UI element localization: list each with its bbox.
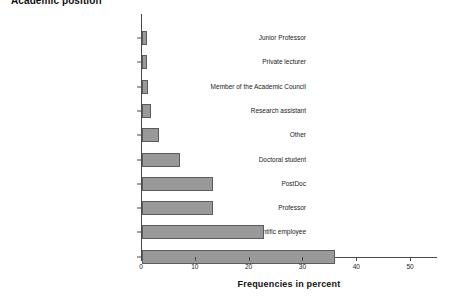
bar-row: Research assistant — [0, 98, 453, 124]
x-axis-tick-label: 30 — [299, 263, 306, 270]
bar — [142, 80, 148, 94]
bar-row: Junior Professor — [0, 25, 453, 51]
bar — [142, 153, 180, 167]
category-label: PostDoc — [281, 181, 306, 188]
x-axis-tick-label: 0 — [139, 263, 143, 270]
bar-chart: Academic position Junior ProfessorPrivat… — [0, 0, 453, 301]
bar — [142, 201, 213, 215]
x-axis-tick — [195, 257, 196, 261]
bar-row: Doctoral student — [0, 147, 453, 173]
y-axis-tick — [137, 62, 141, 63]
bar-row: Professor — [0, 195, 453, 221]
bar-row: Doctoral student and scientific employee — [0, 219, 453, 245]
x-axis-tick-label: 40 — [353, 263, 360, 270]
x-axis-tick — [410, 257, 411, 261]
category-label: Professor — [278, 205, 306, 212]
bar — [142, 31, 147, 45]
x-axis-title: Frequencies in percent — [141, 279, 437, 289]
x-axis-tick-label: 20 — [245, 263, 252, 270]
bar — [142, 250, 335, 264]
bar — [142, 55, 147, 69]
bar-row: Private lecturer — [0, 49, 453, 75]
bar-row: Scientific staff — [0, 244, 453, 270]
y-axis-tick — [137, 208, 141, 209]
x-axis-tick-label: 10 — [191, 263, 198, 270]
y-axis-tick — [137, 159, 141, 160]
category-label: Doctoral student — [259, 156, 306, 163]
y-axis-tick — [137, 38, 141, 39]
category-label: Private lecturer — [262, 59, 306, 66]
bar — [142, 104, 151, 118]
x-axis-tick — [141, 257, 142, 261]
category-label: Other — [290, 132, 306, 139]
category-label: Junior Professor — [259, 35, 306, 42]
category-label: Research assistant — [251, 108, 306, 115]
y-axis-tick — [137, 135, 141, 136]
bar — [142, 177, 213, 191]
bar-row: Other — [0, 122, 453, 148]
x-axis-tick-label: 50 — [406, 263, 413, 270]
bar-row: Member of the Academic Council — [0, 74, 453, 100]
bar — [142, 128, 159, 142]
x-axis-tick — [356, 257, 357, 261]
y-axis-tick — [137, 232, 141, 233]
x-axis-tick — [249, 257, 250, 261]
x-axis-tick — [302, 257, 303, 261]
y-axis-tick — [137, 183, 141, 184]
chart-title: Academic position — [11, 0, 102, 6]
category-label: Member of the Academic Council — [211, 83, 306, 90]
bar-row: PostDoc — [0, 171, 453, 197]
y-axis-tick — [137, 86, 141, 87]
bar — [142, 225, 264, 239]
y-axis-tick — [137, 110, 141, 111]
